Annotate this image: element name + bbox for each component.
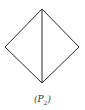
caption-close-paren: ): [47, 94, 51, 104]
diamond-diagram: [0, 0, 85, 90]
figure-caption: (P2): [0, 93, 85, 109]
